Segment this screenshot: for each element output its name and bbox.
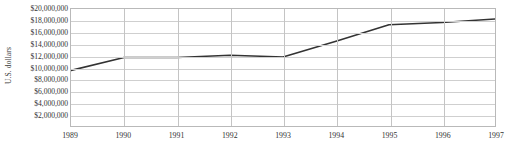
x-axis-tick-label: 1994 bbox=[328, 131, 344, 140]
y-axis-tick-label: $18,000,000 bbox=[31, 15, 68, 24]
x-axis-tick-label: 1997 bbox=[488, 131, 504, 140]
horizontal-gridline bbox=[71, 116, 495, 117]
y-axis-tick-label: $6,000,000 bbox=[34, 87, 68, 96]
x-axis-tick-label: 1989 bbox=[62, 131, 78, 140]
vertical-gridline bbox=[337, 9, 338, 126]
series-line-svg bbox=[71, 9, 495, 126]
x-axis-tick-label: 1990 bbox=[115, 131, 131, 140]
vertical-gridline bbox=[391, 9, 392, 126]
horizontal-gridline bbox=[71, 57, 495, 58]
horizontal-gridline bbox=[71, 21, 495, 22]
line-chart: U.S. dollars $2,000,000$4,000,000$6,000,… bbox=[0, 0, 513, 159]
vertical-gridline bbox=[124, 9, 125, 126]
y-axis-tick-label: $16,000,000 bbox=[31, 27, 68, 36]
y-axis-tick-labels: $2,000,000$4,000,000$6,000,000$8,000,000… bbox=[16, 8, 70, 127]
y-axis-tick-label: $4,000,000 bbox=[34, 99, 68, 108]
horizontal-gridline bbox=[71, 80, 495, 81]
horizontal-gridline bbox=[71, 69, 495, 70]
x-axis-tick-label: 1993 bbox=[275, 131, 291, 140]
x-axis-tick-label: 1996 bbox=[435, 131, 451, 140]
x-axis-tick-label: 1991 bbox=[169, 131, 185, 140]
horizontal-gridline bbox=[71, 104, 495, 105]
vertical-gridline bbox=[178, 9, 179, 126]
plot-area bbox=[70, 8, 496, 127]
y-axis-tick-label: $10,000,000 bbox=[31, 63, 68, 72]
y-axis-tick-label: $20,000,000 bbox=[31, 4, 68, 13]
horizontal-gridline bbox=[71, 33, 495, 34]
vertical-gridline bbox=[284, 9, 285, 126]
horizontal-gridline bbox=[71, 45, 495, 46]
y-axis-tick-label: $2,000,000 bbox=[34, 111, 68, 120]
y-axis-title-label: U.S. dollars bbox=[4, 47, 13, 84]
vertical-gridline bbox=[444, 9, 445, 126]
x-axis-tick-label: 1992 bbox=[222, 131, 238, 140]
y-axis-tick-label: $14,000,000 bbox=[31, 39, 68, 48]
y-axis-tick-label: $8,000,000 bbox=[34, 75, 68, 84]
x-axis-tick-labels: 198919901991199219931994199519961997 bbox=[70, 131, 496, 147]
vertical-gridline bbox=[231, 9, 232, 126]
x-axis-tick-label: 1995 bbox=[382, 131, 398, 140]
y-axis-title: U.S. dollars bbox=[0, 0, 16, 130]
horizontal-gridline bbox=[71, 92, 495, 93]
y-axis-tick-label: $12,000,000 bbox=[31, 51, 68, 60]
